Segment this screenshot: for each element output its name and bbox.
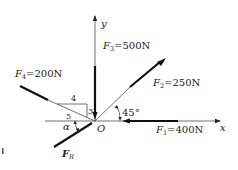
force-f4-label: F4=200N (14, 68, 63, 81)
arrowhead-icon (93, 112, 98, 120)
slope-vertical-label: 3 (88, 107, 93, 116)
slope-horizontal-label: 4 (71, 94, 76, 103)
force-resultant: FR (54, 123, 92, 161)
force-f2-label: F2=250N (152, 77, 201, 90)
y-axis-label: y (100, 18, 107, 29)
slope-triangle: 4 3 5 (57, 94, 93, 121)
force-f4: F4=200N (14, 68, 95, 121)
angle-45-label: 45° (122, 107, 140, 118)
arrowhead-icon (122, 119, 130, 124)
y-axis: y (95, 16, 107, 121)
slope-hypotenuse-label: 5 (66, 112, 71, 121)
angle-alpha-marker: α (63, 121, 79, 133)
origin-label: O (97, 123, 105, 134)
angle-45-marker: 45° (115, 105, 140, 121)
force-f2: F2=250N (95, 58, 201, 121)
force-f3-label: F3=500N (102, 40, 151, 53)
resultant-label: FR (61, 148, 74, 161)
force-diagram: x y O F3=500N F1=400N F2=250N 45° (0, 0, 238, 170)
scan-artifact (2, 148, 4, 154)
force-f1-label: F1=400N (155, 124, 204, 137)
x-axis-label: x (220, 122, 226, 133)
angle-alpha-label: α (63, 121, 70, 132)
